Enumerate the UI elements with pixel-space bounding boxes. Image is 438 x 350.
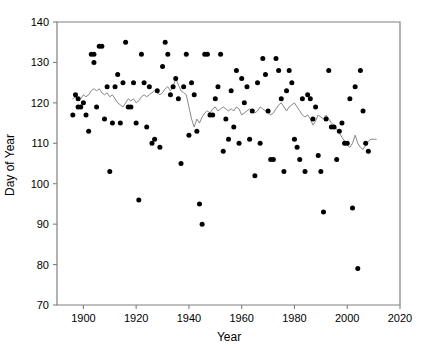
data-point <box>205 52 210 57</box>
data-point <box>347 96 352 101</box>
data-point <box>139 52 144 57</box>
trend-line <box>73 79 376 150</box>
x-tick-label: 1920 <box>124 312 148 324</box>
data-point <box>321 210 326 215</box>
data-points <box>70 40 371 271</box>
data-point <box>186 133 191 138</box>
data-point <box>147 84 152 89</box>
data-point <box>152 137 157 142</box>
data-point <box>76 96 81 101</box>
data-point <box>334 157 339 162</box>
data-point <box>144 125 149 130</box>
data-point <box>300 96 305 101</box>
data-point <box>110 121 115 126</box>
data-point <box>160 64 165 69</box>
data-point <box>258 141 263 146</box>
data-point <box>255 80 260 85</box>
data-point <box>247 137 252 142</box>
data-point <box>316 153 321 158</box>
x-axis-title: Year <box>217 330 241 344</box>
data-point <box>318 169 323 174</box>
data-point <box>215 84 220 89</box>
data-point <box>226 137 231 142</box>
data-point <box>194 129 199 134</box>
data-point <box>173 76 178 81</box>
data-point <box>266 108 271 113</box>
data-point <box>210 112 215 117</box>
data-point <box>136 197 141 202</box>
x-tick-label: 1960 <box>229 312 253 324</box>
axis-frame <box>57 22 400 305</box>
data-point <box>218 52 223 57</box>
data-point <box>237 141 242 146</box>
data-point <box>113 84 118 89</box>
data-point <box>324 117 329 122</box>
scatter-plot: 708090100110120130140 190019201940196019… <box>0 0 438 350</box>
data-point <box>361 108 366 113</box>
data-point <box>142 80 147 85</box>
data-point <box>192 92 197 97</box>
y-tick-label: 100 <box>31 178 49 190</box>
data-point <box>131 80 136 85</box>
data-point <box>273 56 278 61</box>
data-point <box>313 104 318 109</box>
data-point <box>350 205 355 210</box>
data-point <box>292 137 297 142</box>
data-point <box>70 112 75 117</box>
data-point <box>229 88 234 93</box>
x-tick-label: 1940 <box>177 312 201 324</box>
data-point <box>165 52 170 57</box>
data-point <box>332 125 337 130</box>
data-point <box>123 40 128 45</box>
data-point <box>244 84 249 89</box>
data-point <box>366 149 371 154</box>
data-point <box>94 104 99 109</box>
y-tick-label: 140 <box>31 16 49 28</box>
data-point <box>120 80 125 85</box>
data-point <box>310 117 315 122</box>
data-point <box>353 84 358 89</box>
data-point <box>252 173 257 178</box>
data-point <box>263 72 268 77</box>
data-point <box>295 145 300 150</box>
data-point <box>223 117 228 122</box>
data-point <box>181 84 186 89</box>
data-point <box>84 112 89 117</box>
y-tick-label: 90 <box>37 218 49 230</box>
x-axis-ticks: 1900192019401960198020002020 <box>71 305 412 324</box>
y-tick-label: 80 <box>37 259 49 271</box>
data-point <box>297 157 302 162</box>
data-point <box>358 68 363 73</box>
data-point <box>163 40 168 45</box>
data-point <box>279 96 284 101</box>
data-point <box>287 68 292 73</box>
data-point <box>115 72 120 77</box>
data-point <box>213 96 218 101</box>
data-point <box>197 201 202 206</box>
data-point <box>134 121 139 126</box>
data-point <box>281 169 286 174</box>
data-point <box>86 129 91 134</box>
data-point <box>289 80 294 85</box>
data-point <box>91 52 96 57</box>
data-point <box>337 129 342 134</box>
data-point <box>184 52 189 57</box>
data-point <box>276 68 281 73</box>
x-tick-label: 1900 <box>71 312 95 324</box>
data-point <box>105 84 110 89</box>
y-tick-label: 120 <box>31 97 49 109</box>
data-point <box>345 141 350 146</box>
data-point <box>91 60 96 65</box>
data-point <box>81 100 86 105</box>
data-point <box>102 117 107 122</box>
data-point <box>128 104 133 109</box>
y-tick-label: 70 <box>37 299 49 311</box>
data-point <box>157 145 162 150</box>
data-point <box>176 96 181 101</box>
y-axis-ticks: 708090100110120130140 <box>31 16 57 311</box>
data-point <box>189 80 194 85</box>
data-point <box>303 169 308 174</box>
data-point <box>99 44 104 49</box>
y-axis-title: Day of Year <box>3 134 17 196</box>
y-tick-label: 110 <box>31 137 49 149</box>
